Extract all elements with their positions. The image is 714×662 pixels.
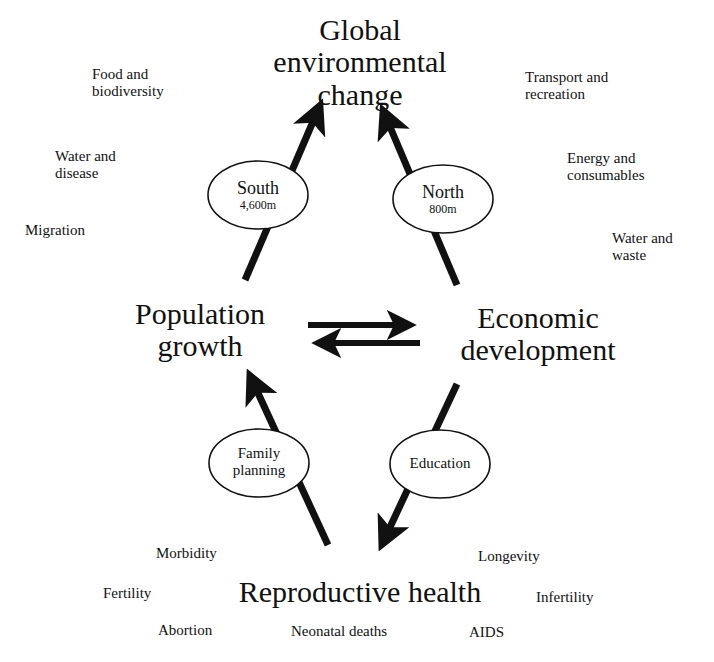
health-infertility: Infertility	[536, 589, 593, 606]
family-planning-line1: Family	[209, 445, 309, 462]
health-fertility: Fertility	[103, 585, 151, 602]
ellipse-north-label: North 800m	[393, 183, 493, 216]
family-planning-line2: planning	[209, 462, 309, 479]
node-reproductive-health: Reproductive health	[210, 576, 510, 608]
issue-energy-line1: Energy and	[567, 150, 644, 167]
issue-water-waste-line1: Water and	[612, 230, 673, 247]
health-abortion: Abortion	[158, 622, 212, 639]
health-longevity: Longevity	[478, 548, 540, 565]
node-global-line1: Global	[250, 14, 470, 46]
issue-water-disease: Water and disease	[55, 148, 116, 182]
south-sub: 4,600m	[208, 199, 308, 212]
issue-transport-recreation: Transport and recreation	[525, 69, 608, 103]
issue-water-disease-line1: Water and	[55, 148, 116, 165]
issue-food-biodiversity: Food and biodiversity	[92, 66, 164, 100]
issue-transport-line1: Transport and	[525, 69, 608, 86]
ellipse-south-label: South 4,600m	[208, 179, 308, 212]
node-global-line2: environmental	[250, 46, 470, 78]
north-title: North	[393, 183, 493, 203]
issue-energy-consumables: Energy and consumables	[567, 150, 644, 184]
issue-energy-line2: consumables	[567, 167, 644, 184]
health-neonatal-deaths: Neonatal deaths	[291, 623, 387, 640]
issue-water-waste-line2: waste	[612, 247, 673, 264]
health-aids: AIDS	[469, 624, 504, 641]
node-population-line1: Population	[115, 298, 285, 330]
ellipse-education-label: Education	[390, 455, 490, 472]
issue-migration: Migration	[25, 222, 85, 239]
node-global-environmental-change: Global environmental change	[250, 14, 470, 111]
issue-food-line1: Food and	[92, 66, 164, 83]
node-economic-line1: Economic	[438, 302, 638, 334]
node-economic-line2: development	[438, 334, 638, 366]
issue-water-waste: Water and waste	[612, 230, 673, 264]
node-global-line3: change	[250, 79, 470, 111]
node-reproductive-line1: Reproductive health	[210, 576, 510, 608]
node-population-line2: growth	[115, 330, 285, 362]
node-population-growth: Population growth	[115, 298, 285, 363]
issue-food-line2: biodiversity	[92, 83, 164, 100]
node-economic-development: Economic development	[438, 302, 638, 367]
issue-water-disease-line2: disease	[55, 165, 116, 182]
health-morbidity: Morbidity	[156, 545, 217, 562]
education-line1: Education	[390, 455, 490, 472]
issue-transport-line2: recreation	[525, 86, 608, 103]
issue-migration-line1: Migration	[25, 222, 85, 239]
south-title: South	[208, 179, 308, 199]
ellipse-family-planning-label: Family planning	[209, 445, 309, 478]
north-sub: 800m	[393, 203, 493, 216]
